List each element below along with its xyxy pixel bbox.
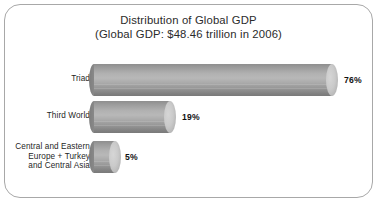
- bar-value-label-cee: 5%: [125, 152, 138, 162]
- bar-cylinder-cee[interactable]: [94, 141, 115, 173]
- cylinder-front-cap-icon: [326, 64, 338, 96]
- chart-plot-area: Distribution of Global GDP (Global GDP: …: [0, 0, 377, 202]
- chart-title: Distribution of Global GDP: [0, 13, 377, 27]
- bar-category-label-triad: Triad: [4, 74, 90, 84]
- bar-category-label-third-world: Third World: [4, 111, 90, 121]
- cylinder-body: [94, 101, 170, 133]
- bar-cylinder-triad[interactable]: [94, 64, 332, 96]
- bar-category-label-cee: Central and Eastern Europe + Turkey and …: [4, 142, 90, 171]
- cylinder-front-cap-icon: [109, 141, 121, 173]
- cylinder-body: [94, 64, 332, 96]
- bar-value-label-triad: 76%: [344, 75, 362, 85]
- bar-cylinder-third-world[interactable]: [94, 101, 170, 133]
- chart-subtitle: (Global GDP: $48.46 trillion in 2006): [0, 27, 377, 41]
- chart-figure: Distribution of Global GDP (Global GDP: …: [0, 0, 377, 202]
- bar-value-label-third-world: 19%: [182, 112, 200, 122]
- chart-title-block: Distribution of Global GDP (Global GDP: …: [0, 13, 377, 41]
- cylinder-front-cap-icon: [164, 101, 176, 133]
